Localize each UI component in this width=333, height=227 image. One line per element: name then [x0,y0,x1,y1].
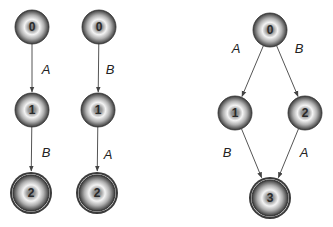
state-label: 1 [232,106,239,120]
edge-label: B [295,41,304,56]
state-node: 0 [253,13,287,47]
state-node: 1 [218,96,252,130]
nodes-layer: 0120120123 [10,10,322,219]
state-label: 2 [94,186,101,200]
edge-label: A [103,147,113,162]
state-label: 2 [28,186,35,200]
transition-edge-b [31,127,32,171]
transition-edge-a [242,46,263,97]
transition-edge-b [98,44,99,92]
state-node: 2 [288,96,322,130]
transition-edge-a [278,129,298,178]
state-node: 0 [15,10,49,44]
state-node: 1 [15,93,49,127]
accepting-state-node: 3 [249,177,291,219]
accepting-state-node: 2 [76,172,118,214]
edge-label: A [299,145,309,160]
state-label: 2 [302,106,309,120]
state-label: 1 [95,103,102,117]
state-diagrams-canvas: 0120120123 ABBAABBA [0,0,333,227]
state-label: 0 [96,20,103,34]
state-node: 1 [81,93,115,127]
state-node: 0 [82,10,116,44]
state-label: 0 [267,23,274,37]
transition-edge-b [241,129,261,178]
state-label: 3 [267,191,274,205]
edge-label: B [223,145,232,160]
accepting-state-node: 2 [10,172,52,214]
edge-label: A [231,41,241,56]
edge-labels-layer: ABBAABBA [41,41,309,162]
transition-edge-a [97,127,98,171]
edge-label: B [106,62,115,77]
edge-label: B [42,145,51,160]
state-label: 1 [29,103,36,117]
edges-layer [31,44,298,178]
state-label: 0 [29,20,36,34]
edge-label: A [41,62,51,77]
